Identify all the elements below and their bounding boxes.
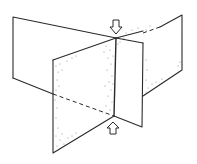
back-plane	[13, 15, 182, 116]
diagram-svg	[0, 0, 197, 164]
right-panel	[114, 43, 143, 127]
front-plane	[53, 31, 143, 153]
up-arrow-icon	[107, 122, 119, 134]
down-arrow-icon	[110, 20, 122, 34]
intersection-line	[114, 38, 116, 116]
intersecting-planes-diagram	[0, 0, 197, 164]
